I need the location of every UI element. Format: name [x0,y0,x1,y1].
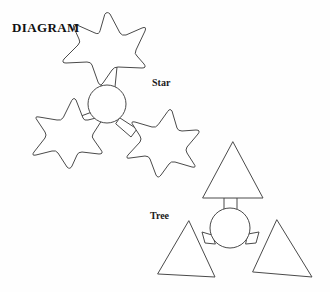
star-connector-bottom-right [116,118,137,137]
star-hub-circle-icon[interactable] [88,85,126,123]
star-icon-bottom-right[interactable] [127,110,199,178]
tree-hub-circle-icon[interactable] [210,208,250,248]
triangle-icon-top[interactable] [203,142,263,198]
star-group-label: Star [152,78,170,88]
star-group[interactable] [33,13,199,178]
tree-group-label: Tree [150,211,169,221]
diagram-vector-layer [0,0,330,292]
triangle-icon-bottom-right[interactable] [253,220,312,277]
triangle-icon-bottom-left[interactable] [158,221,215,277]
page-title: DIAGRAM [12,21,80,34]
diagram-canvas: DIAGRAM Star Tree [0,0,330,292]
